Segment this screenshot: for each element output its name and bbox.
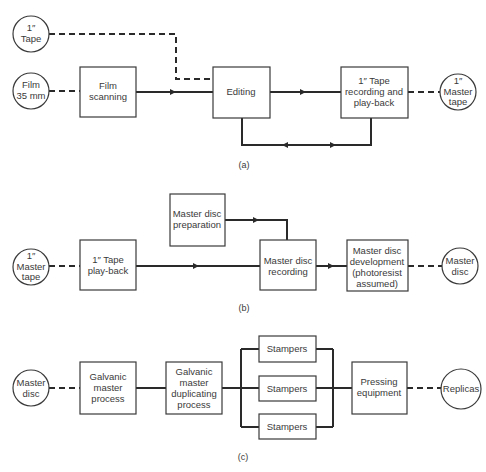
arrow-marker <box>328 263 334 269</box>
arrow-marker <box>330 142 336 148</box>
node-master-tape-input: 1″Mastertape <box>13 249 49 285</box>
node-label: Stampers <box>267 421 308 432</box>
connector-duplicating-to-stampers <box>222 349 259 427</box>
node-galvanic-duplicating: Galvanicmasterduplicatingprocess <box>166 362 222 414</box>
node-pressing-equipment: Pressingequipment <box>352 362 407 414</box>
node-editing: Editing <box>213 67 270 118</box>
process-flow-diagram: 1″Tape Film35 mm Filmscanning Editing 1″… <box>0 0 486 472</box>
node-film-scanning: Filmscanning <box>80 67 136 117</box>
arrow-marker <box>170 89 176 95</box>
caption-a: (a) <box>239 160 250 170</box>
node-label: Stampers <box>267 383 308 394</box>
node-master-disc-output: Masterdisc <box>442 248 478 284</box>
node-label: Galvanicmasterprocess <box>90 371 127 404</box>
node-label: Editing <box>226 86 255 97</box>
node-stampers-1: Stampers <box>259 336 316 362</box>
node-label: Master discdevelopment(photoresistassume… <box>350 245 405 289</box>
connector-loop-recording-editing <box>242 118 371 145</box>
node-label: Master discpreparation <box>173 208 222 230</box>
caption-c: (c) <box>238 452 249 462</box>
node-tape-input: 1″Tape <box>13 16 49 52</box>
node-galvanic-master: Galvanicmasterprocess <box>80 362 136 414</box>
arrow-marker <box>193 263 199 269</box>
node-film-input: Film35 mm <box>13 73 49 109</box>
node-label: 1″ Tapeplay-back <box>88 254 129 276</box>
node-label: Stampers <box>267 343 308 354</box>
arrow-marker <box>253 217 259 223</box>
node-label: Galvanicmasterduplicatingprocess <box>171 366 216 410</box>
caption-b: (b) <box>239 303 250 313</box>
arrow-marker <box>282 142 288 148</box>
node-master-tape-output: 1″Mastertape <box>440 74 476 110</box>
node-tape-playback: 1″ Tapeplay-back <box>80 240 136 290</box>
node-label: Replicas <box>443 383 480 394</box>
node-disc-recording: Master discrecording <box>260 240 316 290</box>
node-stampers-2: Stampers <box>259 376 316 401</box>
node-master-disc-input: Masterdisc <box>13 370 49 406</box>
node-disc-preparation: Master discpreparation <box>170 194 225 246</box>
connector-preparation-to-recording <box>225 220 287 240</box>
node-disc-development: Master discdevelopment(photoresistassume… <box>347 240 408 291</box>
node-tape-recording: 1″ Taperecording andplay-back <box>341 67 408 118</box>
node-label: Pressingequipment <box>357 376 402 398</box>
node-replicas-output: Replicas <box>441 369 481 409</box>
node-label: Master discrecording <box>264 255 313 277</box>
arrow-marker <box>300 89 306 95</box>
node-stampers-3: Stampers <box>259 414 316 439</box>
connector-stampers-to-pressing <box>316 349 352 427</box>
